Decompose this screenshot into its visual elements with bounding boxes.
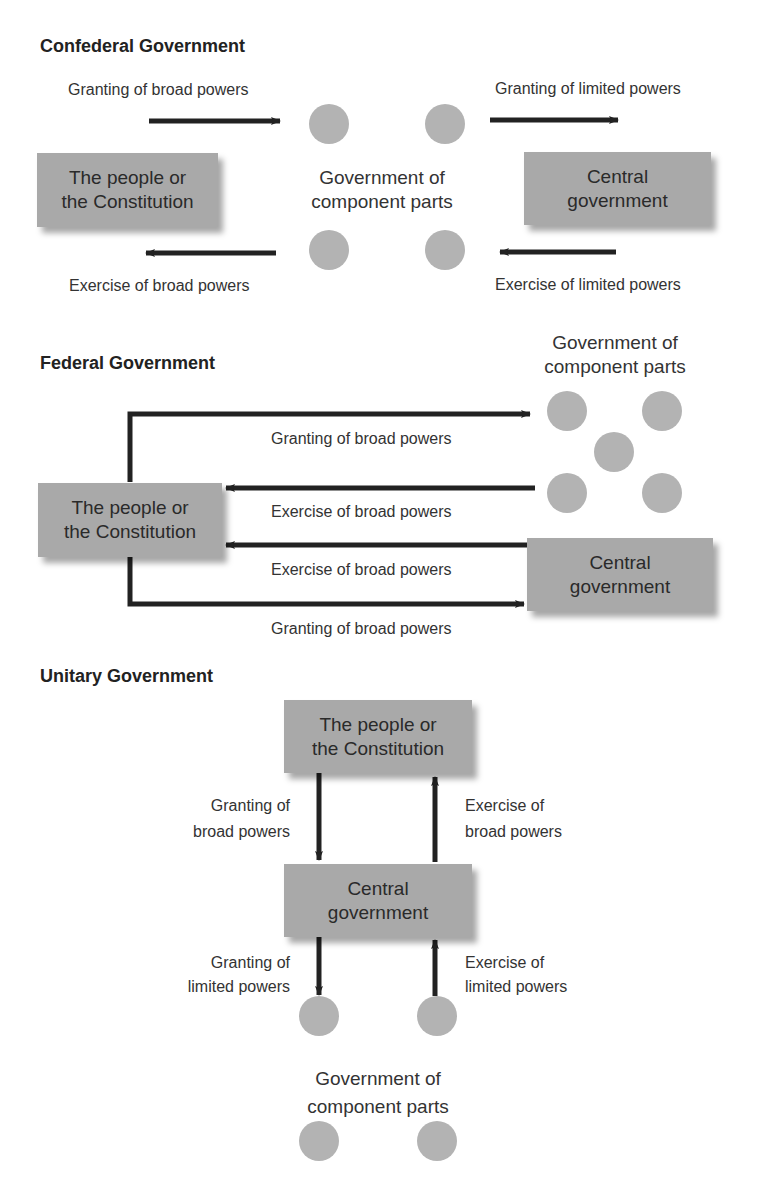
unitary-component-label: Government of component parts — [288, 1067, 468, 1119]
label-unitary-exercise-broad: Exercise of broad powers — [465, 795, 605, 843]
federal-central-box: Centralgovernment — [527, 538, 713, 611]
box-line: the Constitution — [312, 737, 444, 761]
component-circle — [547, 473, 587, 513]
confederal-central-box: Centralgovernment — [524, 152, 711, 225]
box-line: Central — [328, 877, 428, 901]
unitary-people-box: The people orthe Constitution — [284, 700, 472, 773]
confederal-people-box: The people orthe Constitution — [37, 153, 218, 227]
label-line: limited powers — [150, 976, 290, 998]
label-federal-exercise-component: Exercise of broad powers — [271, 503, 452, 521]
box-line: The people or — [64, 496, 196, 520]
label-line: Exercise of — [465, 795, 605, 817]
component-circle — [309, 104, 349, 144]
label-federal-exercise-central: Exercise of broad powers — [271, 561, 452, 579]
component-circle — [309, 230, 349, 270]
label-line: Government of — [525, 331, 705, 355]
label-confederal-grant-broad: Granting of broad powers — [68, 81, 249, 99]
component-circle — [417, 1121, 457, 1161]
arrow-federal-grant-component — [130, 414, 530, 482]
component-circle — [547, 391, 587, 431]
box-line: government — [567, 189, 667, 213]
label-confederal-exercise-limited: Exercise of limited powers — [495, 276, 681, 294]
federal-title: Federal Government — [40, 353, 215, 374]
label-line: broad powers — [160, 821, 290, 843]
box-line: The people or — [61, 166, 193, 190]
confederal-component-label: Government of component parts — [292, 166, 472, 214]
component-circle — [425, 104, 465, 144]
component-circle — [642, 391, 682, 431]
component-circle — [299, 1121, 339, 1161]
label-line: Government of — [288, 1067, 468, 1091]
label-line: Government of — [292, 166, 472, 190]
label-line: limited powers — [465, 976, 605, 998]
federal-component-label: Government of component parts — [525, 331, 705, 379]
federal-people-box: The people orthe Constitution — [38, 483, 222, 557]
box-line: the Constitution — [64, 520, 196, 544]
label-unitary-grant-limited: Granting of limited powers — [150, 952, 290, 998]
box-line: Central — [567, 165, 667, 189]
component-circle — [417, 996, 457, 1036]
box-line: government — [328, 901, 428, 925]
label-line: broad powers — [465, 821, 605, 843]
label-line: Granting of — [160, 795, 290, 817]
box-line: Central — [570, 551, 670, 575]
label-federal-grant-central: Granting of broad powers — [271, 620, 452, 638]
label-confederal-exercise-broad: Exercise of broad powers — [69, 277, 250, 295]
confederal-title: Confederal Government — [40, 36, 245, 57]
component-circle — [594, 432, 634, 472]
label-line: component parts — [292, 190, 472, 214]
component-circle — [299, 996, 339, 1036]
label-line: Exercise of — [465, 952, 605, 974]
label-line: component parts — [288, 1095, 468, 1119]
box-line: government — [570, 575, 670, 599]
unitary-title: Unitary Government — [40, 666, 213, 687]
label-unitary-exercise-limited: Exercise of limited powers — [465, 952, 605, 998]
label-unitary-grant-broad: Granting of broad powers — [160, 795, 290, 843]
label-line: component parts — [525, 355, 705, 379]
label-federal-grant-component: Granting of broad powers — [271, 430, 452, 448]
box-line: the Constitution — [61, 190, 193, 214]
label-confederal-grant-limited: Granting of limited powers — [495, 80, 681, 98]
label-line: Granting of — [150, 952, 290, 974]
unitary-central-box: Centralgovernment — [284, 864, 472, 937]
component-circle — [642, 473, 682, 513]
box-line: The people or — [312, 713, 444, 737]
component-circle — [425, 230, 465, 270]
